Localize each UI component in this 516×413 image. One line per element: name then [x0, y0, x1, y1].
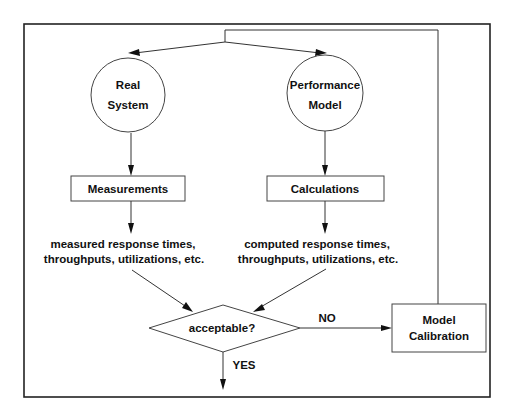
arrowhead-icon	[128, 165, 134, 176]
real-system-label-2: System	[108, 99, 149, 111]
computed-output: computed response times, throughputs, ut…	[238, 238, 398, 265]
decision-label: acceptable?	[189, 322, 255, 334]
node-performance-model: Performance Model	[287, 55, 363, 131]
measured-output-line-1: measured response times,	[50, 238, 195, 250]
node-calculations: Calculations	[267, 176, 384, 201]
node-real-system: Real System	[91, 58, 165, 132]
arrowhead-icon	[128, 223, 134, 234]
arrowhead-icon	[182, 302, 193, 312]
node-model-calibration: Model Calibration	[392, 304, 486, 352]
arrowhead-icon	[381, 325, 392, 331]
node-decision: acceptable?	[149, 305, 300, 352]
edge-to-performance-model	[225, 42, 320, 53]
real-system-label-1: Real	[116, 79, 140, 91]
edge-measured-to-decision	[132, 270, 188, 308]
arrowhead-icon	[322, 165, 328, 176]
flowchart: Real System Performance Model Measuremen…	[0, 0, 516, 413]
calculations-label: Calculations	[291, 183, 359, 195]
performance-model-label-1: Performance	[290, 79, 360, 91]
edge-to-real-system	[135, 42, 225, 53]
measured-output-line-2: throughputs, utilizations, etc.	[44, 253, 204, 265]
computed-output-line-2: throughputs, utilizations, etc.	[238, 253, 398, 265]
no-label: NO	[318, 312, 335, 324]
arrowhead-icon	[322, 223, 328, 234]
model-calibration-label-2: Calibration	[409, 330, 469, 342]
arrowhead-icon	[220, 379, 226, 390]
measurements-label: Measurements	[88, 183, 169, 195]
computed-output-line-1: computed response times,	[244, 238, 390, 250]
model-calibration-label-1: Model	[422, 314, 455, 326]
measured-output: measured response times, throughputs, ut…	[44, 238, 204, 265]
node-measurements: Measurements	[71, 176, 185, 201]
performance-model-label-2: Model	[308, 99, 341, 111]
arrowhead-icon	[128, 49, 140, 56]
yes-label: YES	[232, 359, 255, 371]
edge-computed-to-decision	[259, 269, 326, 308]
